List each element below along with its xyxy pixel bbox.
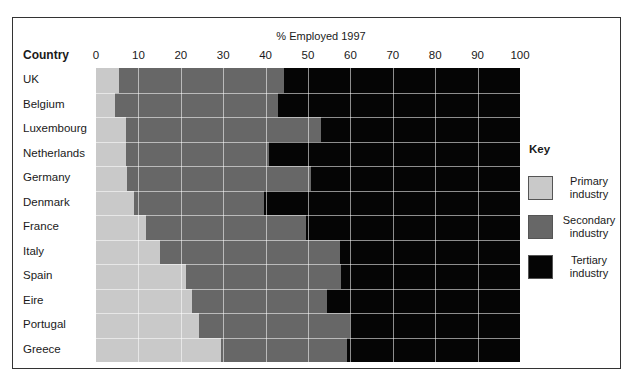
bar-segment-secondary: [119, 68, 284, 93]
x-tick-label: 50: [302, 49, 315, 61]
gridline-vertical: [308, 68, 309, 362]
x-tick-label: 20: [174, 49, 187, 61]
bar-segment-primary: [96, 142, 126, 167]
country-label: Portugal: [23, 318, 66, 330]
x-tick-label: 100: [510, 49, 529, 61]
legend-label-line: industry: [559, 267, 619, 280]
country-label: UK: [23, 73, 39, 85]
country-label: Eire: [23, 294, 43, 306]
country-column-header: Country: [23, 48, 69, 62]
bar-segment-secondary: [199, 313, 350, 338]
bar-segment-secondary: [127, 166, 311, 191]
x-tick-label: 80: [429, 49, 442, 61]
bar-segment-tertiary: [341, 264, 520, 289]
bar-segment-secondary: [134, 191, 264, 216]
bar-segment-primary: [96, 240, 160, 265]
bar-segment-tertiary: [347, 338, 520, 363]
bar-segment-tertiary: [340, 240, 520, 265]
legend-swatch: [528, 176, 553, 200]
legend-title: Key: [529, 143, 550, 155]
legend-label-line: industry: [559, 188, 619, 201]
x-tick-label: 30: [217, 49, 230, 61]
legend-label: Tertiaryindustry: [559, 254, 619, 280]
bar-segment-tertiary: [311, 166, 520, 191]
gridline-vertical: [181, 68, 182, 362]
plot-area: [96, 68, 520, 362]
x-tick-label: 70: [386, 49, 399, 61]
bar-segment-secondary: [160, 240, 339, 265]
bar-segment-tertiary: [278, 93, 520, 118]
bar-segment-secondary: [221, 338, 348, 363]
gridline-vertical: [478, 68, 479, 362]
x-tick-label: 10: [132, 49, 145, 61]
x-tick-label: 90: [471, 49, 484, 61]
gridline-vertical: [223, 68, 224, 362]
bar-segment-tertiary: [269, 142, 520, 167]
country-label: Netherlands: [23, 147, 85, 159]
country-label: Belgium: [23, 98, 65, 110]
legend-label-line: Primary: [559, 175, 619, 188]
bar-segment-primary: [96, 166, 127, 191]
bar-segment-primary: [96, 289, 192, 314]
gridline-vertical: [350, 68, 351, 362]
country-label: Germany: [23, 171, 70, 183]
bar-segment-secondary: [192, 289, 327, 314]
country-label: Greece: [23, 343, 61, 355]
country-label: Italy: [23, 245, 44, 257]
legend-label-line: industry: [559, 227, 619, 240]
bar-segment-primary: [96, 313, 199, 338]
bar-segment-tertiary: [284, 68, 520, 93]
gridline-vertical: [435, 68, 436, 362]
bar-segment-primary: [96, 68, 119, 93]
legend-swatch: [528, 215, 553, 239]
bar-segment-primary: [96, 93, 115, 118]
legend-label-line: Secondary: [559, 214, 619, 227]
bar-segment-secondary: [186, 264, 341, 289]
gridline-vertical: [138, 68, 139, 362]
legend-label-line: Tertiary: [559, 254, 619, 267]
legend-label: Primaryindustry: [559, 175, 619, 201]
x-tick-label: 40: [259, 49, 272, 61]
country-label: France: [23, 220, 59, 232]
bar-segment-secondary: [146, 215, 307, 240]
bar-segment-tertiary: [306, 215, 520, 240]
legend-swatch: [528, 255, 553, 279]
bar-segment-primary: [96, 338, 221, 363]
country-label: Spain: [23, 269, 52, 281]
gridline-vertical: [266, 68, 267, 362]
legend-label: Secondaryindustry: [559, 214, 619, 240]
bar-segment-primary: [96, 191, 134, 216]
gridline-vertical: [393, 68, 394, 362]
country-label: Luxembourg: [23, 122, 87, 134]
bar-segment-primary: [96, 117, 126, 142]
chart-title-text: % Employed 1997: [276, 30, 365, 42]
country-label: Denmark: [23, 196, 70, 208]
bar-segment-tertiary: [327, 289, 520, 314]
x-tick-label: 60: [344, 49, 357, 61]
bar-segment-primary: [96, 264, 186, 289]
chart-title: % Employed 1997: [0, 30, 634, 42]
bar-segment-secondary: [126, 142, 269, 167]
x-tick-label: 0: [93, 49, 99, 61]
